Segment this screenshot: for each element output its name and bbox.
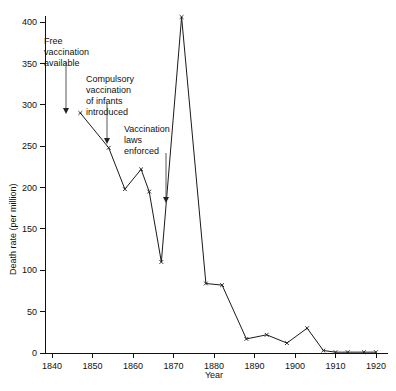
x-tick-label-1890: 1890	[244, 361, 264, 371]
y-tick-label-150: 150	[22, 224, 37, 234]
smallpox-death-rate-chart: 050100150200250300350400 Death rate (per…	[0, 0, 396, 391]
series-line-smallpox	[80, 17, 376, 352]
x-tick-label-1910: 1910	[325, 361, 345, 371]
annotation-vaccination-laws: Vaccinationlawsenforced	[124, 124, 170, 203]
data-series	[78, 15, 377, 354]
annotation-free-vaccination: Freevaccinationavailable	[44, 36, 89, 114]
annotation-arrowhead-free-vaccination	[63, 108, 69, 114]
y-axis-title: Death rate (per million)	[8, 183, 18, 275]
chart-canvas: 050100150200250300350400 Death rate (per…	[0, 0, 396, 391]
annotation-label-free-vaccination: Freevaccinationavailable	[44, 36, 89, 68]
x-axis: 184018501860187018801890190019101920 Yea…	[42, 353, 388, 380]
y-tick-label-200: 200	[22, 183, 37, 193]
x-tick-label-1860: 1860	[123, 361, 143, 371]
annotation-label-compulsory-vaccination: Compulsoryvaccinationof infantsintroduce…	[86, 74, 135, 117]
x-tick-label-1870: 1870	[163, 361, 183, 371]
y-tick-label-50: 50	[27, 307, 37, 317]
y-tick-label-400: 400	[22, 17, 37, 27]
annotations: FreevaccinationavailableCompulsoryvaccin…	[44, 36, 170, 203]
x-axis-title: Year	[205, 370, 223, 380]
y-tick-labels: 050100150200250300350400	[22, 17, 37, 358]
data-point-1903	[305, 326, 309, 330]
y-tick-label-100: 100	[22, 265, 37, 275]
x-tick-label-1850: 1850	[82, 361, 102, 371]
x-tick-marks	[52, 353, 376, 358]
x-tick-label-1840: 1840	[42, 361, 62, 371]
annotation-arrowhead-vaccination-laws	[163, 197, 169, 203]
x-tick-label-1900: 1900	[285, 361, 305, 371]
y-tick-label-0: 0	[32, 348, 37, 358]
data-point-1898	[285, 341, 289, 345]
data-point-1847	[78, 111, 82, 115]
y-tick-label-300: 300	[22, 100, 37, 110]
x-tick-label-1920: 1920	[366, 361, 386, 371]
y-tick-marks	[40, 22, 45, 353]
y-tick-label-350: 350	[22, 59, 37, 69]
y-axis: 050100150200250300350400 Death rate (per…	[8, 16, 45, 358]
annotation-label-vaccination-laws: Vaccinationlawsenforced	[124, 124, 170, 156]
y-tick-label-250: 250	[22, 141, 37, 151]
